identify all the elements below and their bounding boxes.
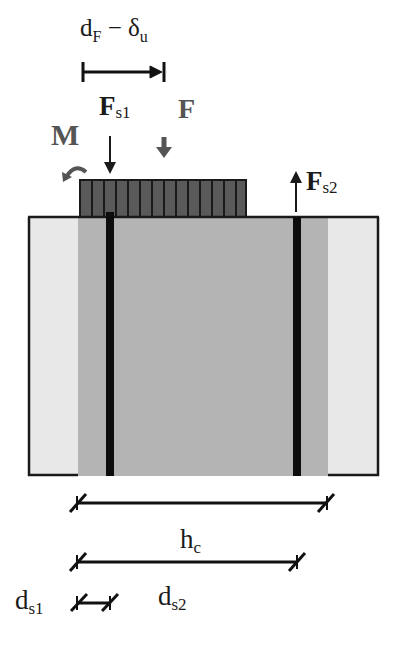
column-section-diagram: dF − δu M Fs1 F Fs2 (0, 0, 401, 649)
force-arrow-icon (156, 137, 172, 158)
ds2-dimension (70, 553, 305, 571)
hc-dimension (70, 494, 334, 512)
ds1-dimension (71, 594, 118, 611)
fs2-arrow-icon (290, 171, 302, 212)
rebar-right (293, 217, 301, 476)
top-dimension-arrow (83, 62, 164, 82)
label-delta: δ (128, 14, 140, 41)
label-sub-F: F (93, 28, 102, 45)
core-zone (78, 217, 328, 476)
label-d: d (80, 14, 93, 41)
label-sub-u: u (140, 28, 148, 45)
fs1-arrow-icon (104, 136, 116, 174)
ds2-label: ds2 (158, 581, 187, 614)
hc-label: hc (180, 524, 202, 557)
top-dimension-label: dF − δu (80, 14, 148, 45)
ds1-label: ds1 (15, 585, 44, 618)
fs2-label: Fs2 (306, 166, 338, 197)
moment-label: M (51, 118, 79, 151)
svg-text:dF − δu: dF − δu (80, 14, 148, 45)
rebar-left (106, 212, 114, 476)
loading-plate (80, 180, 246, 217)
section-box (28, 212, 379, 476)
fs1-label: Fs1 (99, 91, 131, 122)
label-minus: − (101, 14, 128, 41)
force-label: F (178, 93, 195, 124)
